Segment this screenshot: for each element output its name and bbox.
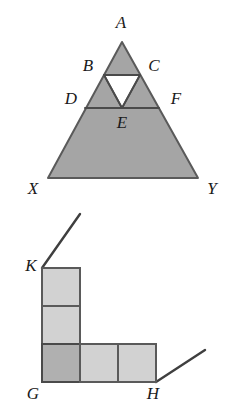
label-d: D — [65, 90, 77, 107]
label-b: B — [83, 57, 93, 74]
label-y: Y — [207, 180, 216, 197]
label-f: F — [171, 90, 181, 107]
square-horizontal-middle — [80, 344, 118, 382]
label-k: K — [25, 257, 36, 274]
label-a: A — [116, 14, 126, 31]
label-h: H — [147, 385, 159, 402]
bottom-figure-group — [42, 214, 205, 382]
label-e: E — [117, 114, 127, 131]
square-horizontal-right — [118, 344, 156, 382]
label-g: G — [27, 385, 39, 402]
ray-from-h — [156, 350, 205, 382]
square-vertical-middle — [42, 306, 80, 344]
label-c: C — [148, 57, 159, 74]
outer-triangle-shape — [48, 42, 198, 178]
top-figure-group — [48, 42, 198, 178]
geometry-svg — [0, 0, 228, 404]
square-corner — [42, 344, 80, 382]
label-x: X — [28, 180, 38, 197]
figure-canvas: A B C D F E X Y K G H — [0, 0, 228, 404]
square-vertical-top — [42, 268, 80, 306]
ray-from-k — [42, 214, 80, 268]
